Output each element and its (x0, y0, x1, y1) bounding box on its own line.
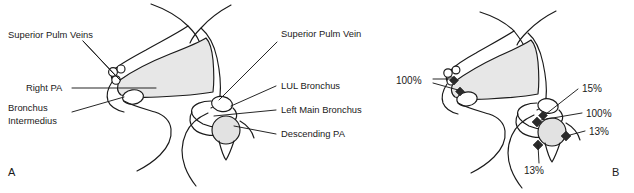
superior-pulm-vein-circle-1 (444, 69, 452, 77)
label-bronchus-intermedius-line2: Intermedius (8, 115, 57, 126)
panel-b: 100% 15% 100% 13% 13% (388, 0, 634, 193)
label-superior-pulm-veins: Superior Pulm Veins (8, 29, 93, 40)
label-left-main-bronchus: Left Main Bronchus (281, 104, 362, 115)
superior-pulm-vein-circle-2 (452, 66, 460, 74)
descending-pa-circle (212, 116, 240, 144)
label-bronchus-intermedius-line1: Bronchus (8, 102, 48, 113)
percent-right-100: 100% (396, 75, 422, 86)
percent-lul-15: 15% (582, 83, 602, 94)
label-right-pa: Right PA (26, 82, 63, 93)
label-superior-pulm-vein: Superior Pulm Vein (281, 28, 361, 39)
anatomy-drawing-b (442, 11, 580, 188)
figure-root: Superior Pulm Veins Right PA Bronchus In… (0, 0, 634, 193)
anatomy-drawing-a (107, 4, 254, 186)
panel-a: Superior Pulm Veins Right PA Bronchus In… (0, 0, 388, 193)
percent-descending-pa-13-right: 13% (589, 126, 609, 137)
superior-pulm-vein-circle-3 (112, 76, 120, 84)
label-lul-bronchus: LUL Bronchus (281, 80, 340, 91)
panel-letter-b: B (612, 166, 620, 178)
panel-letter-a: A (8, 166, 16, 178)
percent-descending-pa-13-bottom: 13% (524, 165, 544, 176)
superior-pulm-vein-circle-2 (117, 65, 125, 73)
label-descending-pa: Descending PA (281, 128, 346, 139)
percent-left-main-100: 100% (586, 108, 612, 119)
